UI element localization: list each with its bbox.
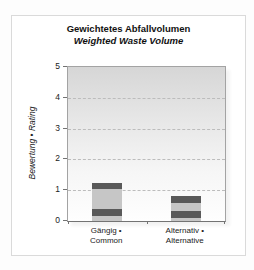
x-category-label-line: Common bbox=[67, 236, 146, 246]
plot-area bbox=[67, 66, 226, 222]
stacked-bar-2 bbox=[171, 196, 201, 221]
x-tick-mark-1 bbox=[147, 221, 148, 224]
x-category-label-2: Alternativ •Alternative bbox=[146, 226, 225, 246]
x-tick-mark-0 bbox=[68, 221, 69, 224]
bar-2-segment-3 bbox=[171, 203, 201, 211]
x-category-label-line: Alternative bbox=[146, 236, 225, 246]
x-category-label-1: Gängig •Common bbox=[67, 226, 146, 246]
y-tick-label-2: 2 bbox=[46, 154, 60, 163]
y-tick-label-0: 0 bbox=[46, 216, 60, 225]
bar-2-segment-1 bbox=[171, 218, 201, 221]
y-tick-mark-4 bbox=[63, 97, 67, 98]
bar-1-segment-2 bbox=[92, 209, 122, 217]
x-tick-mark-2 bbox=[224, 221, 225, 224]
x-category-label-line: Gängig • bbox=[67, 226, 146, 236]
y-tick-mark-5 bbox=[63, 66, 67, 67]
gridline-2 bbox=[68, 159, 225, 160]
y-axis-label: Bewertung • Rating bbox=[27, 68, 39, 218]
y-tick-mark-2 bbox=[63, 158, 67, 159]
chart-card: Gewichtetes Abfallvolumen Weighted Waste… bbox=[11, 15, 246, 256]
chart-subtitle: Weighted Waste Volume bbox=[12, 35, 245, 47]
y-tick-label-3: 3 bbox=[46, 124, 60, 133]
y-tick-mark-1 bbox=[63, 189, 67, 190]
chart-title: Gewichtetes Abfallvolumen bbox=[12, 23, 245, 35]
y-tick-mark-0 bbox=[63, 220, 67, 221]
gridline-3 bbox=[68, 129, 225, 130]
y-tick-label-5: 5 bbox=[46, 62, 60, 71]
bar-1-segment-1 bbox=[92, 216, 122, 221]
title-block: Gewichtetes Abfallvolumen Weighted Waste… bbox=[12, 23, 245, 47]
bar-2-segment-2 bbox=[171, 211, 201, 218]
y-tick-label-1: 1 bbox=[46, 185, 60, 194]
x-axis-labels: Gängig •CommonAlternativ •Alternative bbox=[67, 226, 224, 246]
gridline-4 bbox=[68, 98, 225, 99]
bar-2-segment-4 bbox=[171, 196, 201, 203]
stacked-bar-1 bbox=[92, 183, 122, 221]
x-category-label-line: Alternativ • bbox=[146, 226, 225, 236]
y-tick-label-4: 4 bbox=[46, 93, 60, 102]
y-tick-mark-3 bbox=[63, 128, 67, 129]
bar-1-segment-3 bbox=[92, 189, 122, 209]
